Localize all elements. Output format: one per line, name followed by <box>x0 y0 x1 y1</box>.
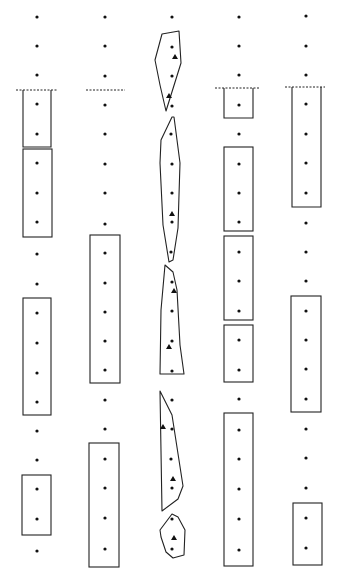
dot-marker <box>103 457 106 460</box>
dot-marker <box>304 191 307 194</box>
dot-marker <box>304 44 307 47</box>
group-rectangle <box>23 90 51 147</box>
dot-marker <box>35 15 38 18</box>
dot-marker <box>237 44 240 47</box>
dot-marker <box>103 398 106 401</box>
dot-marker <box>237 428 240 431</box>
dot-marker <box>304 73 307 76</box>
triangle-icon <box>172 54 178 59</box>
dot-marker <box>35 220 38 223</box>
dot-marker <box>304 486 307 489</box>
dot-marker <box>304 221 307 224</box>
grouping-polygons <box>155 31 185 558</box>
dot-marker <box>35 132 38 135</box>
dot-marker <box>169 250 172 253</box>
dot-marker <box>170 339 173 342</box>
group-rectangle <box>224 147 253 231</box>
dot-marker <box>103 547 106 550</box>
dot-marker <box>237 103 240 106</box>
dot-marker <box>103 281 106 284</box>
dot-marker <box>237 132 240 135</box>
grouping-rectangles <box>22 87 322 567</box>
dot-marker <box>103 310 106 313</box>
dot-marker <box>35 252 38 255</box>
dot-marker <box>170 15 173 18</box>
dot-marker <box>304 516 307 519</box>
dot-marker <box>304 546 307 549</box>
dot-marker <box>35 191 38 194</box>
dot-marker <box>170 369 173 372</box>
dot-marker <box>103 368 106 371</box>
dot-marker <box>103 251 106 254</box>
dot-marker <box>35 44 38 47</box>
triangle-icon <box>170 476 176 481</box>
dot-marker <box>35 282 38 285</box>
group-polygon <box>155 31 181 111</box>
triangle-icon <box>169 211 175 216</box>
dot-marker <box>237 338 240 341</box>
dot-marker <box>304 132 307 135</box>
dot-marker <box>170 45 173 48</box>
dot-marker <box>103 486 106 489</box>
group-polygon <box>160 391 183 511</box>
dot-marker <box>304 338 307 341</box>
dot-marker <box>103 103 106 106</box>
dot-marker <box>35 73 38 76</box>
dot-marker <box>304 456 307 459</box>
dot-marker <box>237 487 240 490</box>
dot-marker <box>237 220 240 223</box>
dot-grid-diagram <box>0 0 337 577</box>
dot-marker <box>103 132 106 135</box>
dashed-baselines <box>16 87 325 90</box>
group-rectangle <box>291 296 321 412</box>
dot-marker <box>237 368 240 371</box>
dot-marker <box>304 161 307 164</box>
dot-marker <box>35 371 38 374</box>
dot-marker <box>304 250 307 253</box>
diagram-canvas <box>0 0 337 577</box>
group-rectangle <box>224 236 253 320</box>
group-polygon <box>160 117 180 262</box>
dot-marker <box>237 15 240 18</box>
dot-marker <box>35 517 38 520</box>
dot-marker <box>103 15 106 18</box>
group-rectangle <box>224 325 253 382</box>
group-rectangle <box>23 298 51 415</box>
dot-marker <box>237 191 240 194</box>
dot-marker <box>170 486 173 489</box>
dot-marker <box>304 279 307 282</box>
dot-marker <box>237 162 240 165</box>
dot-marker <box>103 162 106 165</box>
dot-marker <box>237 397 240 400</box>
dot-marker <box>35 429 38 432</box>
dot-marker <box>170 280 173 283</box>
dot-marker <box>35 102 38 105</box>
dot-marker <box>35 341 38 344</box>
dot-marker <box>103 44 106 47</box>
dot-marker <box>237 279 240 282</box>
group-rectangle <box>293 503 322 565</box>
dot-marker <box>304 427 307 430</box>
dot-marker <box>170 74 173 77</box>
group-rectangle <box>22 475 51 535</box>
dot-marker <box>237 73 240 76</box>
dot-marker <box>35 311 38 314</box>
dot-marker <box>237 457 240 460</box>
dot-marker <box>35 487 38 490</box>
dot-marker <box>170 427 173 430</box>
dot-marker <box>35 161 38 164</box>
dot-marker <box>103 516 106 519</box>
dot-marker <box>35 400 38 403</box>
dot-marker <box>103 191 106 194</box>
dot-marker <box>304 14 307 17</box>
dot-marker <box>103 339 106 342</box>
dot-marker <box>170 162 173 165</box>
group-rectangle <box>90 235 120 383</box>
dot-marker <box>237 548 240 551</box>
dot-marker <box>169 457 172 460</box>
group-rectangle <box>224 88 253 118</box>
dot-marker <box>237 309 240 312</box>
dot-marker <box>237 250 240 253</box>
dot-marker <box>170 104 173 107</box>
dot-marker <box>35 549 38 552</box>
